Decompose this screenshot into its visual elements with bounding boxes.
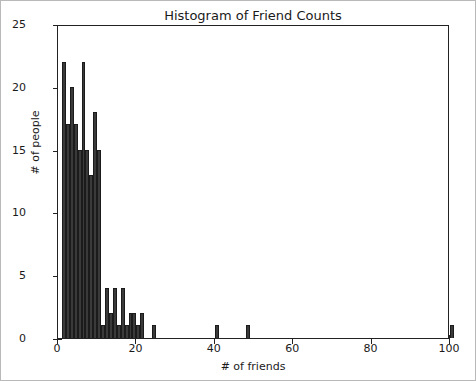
y-tick-mark-inner — [58, 339, 62, 340]
x-tick-mark — [371, 339, 372, 344]
y-tick-label: 10 — [0, 206, 26, 219]
y-tick-label: 0 — [0, 332, 26, 345]
x-tick-mark — [292, 339, 293, 344]
histogram-bar — [246, 325, 250, 338]
x-tick-mark — [214, 339, 215, 344]
histogram-bar — [450, 325, 454, 338]
x-axis-label: # of friends — [57, 360, 449, 373]
y-tick-label: 5 — [0, 269, 26, 282]
histogram-bar — [215, 325, 219, 338]
y-tick-label: 20 — [0, 81, 26, 94]
figure-border: Histogram of Friend Counts # of people #… — [0, 0, 476, 381]
histogram-bar — [140, 313, 144, 338]
plot-area — [57, 25, 449, 339]
chart-title: Histogram of Friend Counts — [57, 8, 449, 24]
y-axis-label: # of people — [29, 93, 42, 193]
histogram-bar — [152, 325, 156, 338]
y-tick-label: 15 — [0, 144, 26, 157]
x-tick-mark — [57, 339, 58, 344]
histogram-bars — [58, 26, 448, 338]
histogram-bar — [97, 150, 101, 338]
x-tick-mark — [449, 339, 450, 344]
x-tick-mark — [135, 339, 136, 344]
y-tick-label: 25 — [0, 18, 26, 31]
figure-canvas: Histogram of Friend Counts # of people #… — [9, 8, 469, 374]
